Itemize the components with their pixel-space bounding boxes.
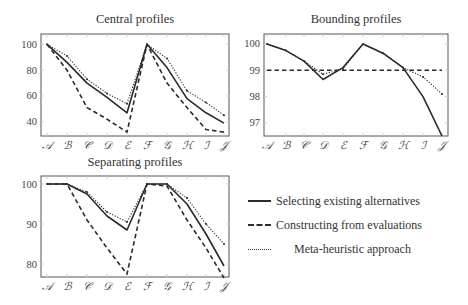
series-dashed-line	[47, 184, 224, 278]
data-point-marker	[46, 183, 48, 185]
data-point-marker	[46, 43, 48, 45]
x-tick-label: ℐ	[204, 280, 211, 293]
data-point-marker	[205, 223, 207, 225]
data-point-marker	[303, 60, 305, 62]
central-profiles-plot: 406080100𝒜ℬ𝒞𝒟ℰℱ𝒢ℋℐ𝒥	[21, 34, 232, 152]
data-point-marker	[422, 76, 424, 78]
y-tick-label: 90	[27, 219, 38, 230]
data-point-marker	[186, 90, 188, 92]
x-tick-label: 𝒞	[300, 139, 311, 152]
data-point-marker	[266, 43, 268, 45]
dashed-line-icon	[248, 224, 271, 226]
x-tick-label: ℰ	[340, 139, 348, 152]
y-tick-label: 40	[27, 116, 38, 127]
x-tick-label: 𝒥	[437, 139, 450, 152]
series-solid-line	[267, 44, 442, 136]
data-point-marker	[86, 78, 88, 80]
series-dashed-line	[47, 44, 224, 132]
plot-frame	[264, 34, 448, 136]
plots-canvas: 406080100𝒜ℬ𝒞𝒟ℰℱ𝒢ℋℐ𝒥 979899100𝒜ℬ𝒞𝒟ℰℱ𝒢ℋℐ𝒥 …	[0, 0, 468, 305]
x-tick-label: ℱ	[359, 139, 370, 152]
x-tick-label: 𝒥	[219, 139, 232, 152]
y-tick-label: 97	[250, 117, 261, 128]
data-point-marker	[146, 43, 148, 45]
data-point-marker	[66, 55, 68, 57]
data-point-marker	[382, 52, 384, 54]
solid-line-icon	[248, 200, 271, 202]
legend-label: Constructing from evaluations	[276, 218, 422, 233]
data-point-marker	[362, 43, 364, 45]
x-tick-label: 𝒟	[103, 139, 114, 152]
x-tick-label: ℱ	[143, 280, 154, 293]
data-point-marker	[66, 183, 68, 185]
x-tick-label: 𝒞	[83, 280, 94, 293]
y-tick-label: 100	[21, 179, 37, 190]
data-point-marker	[205, 101, 207, 103]
x-tick-label: ℬ	[63, 280, 73, 293]
data-point-marker	[223, 114, 225, 116]
x-tick-label: 𝒞	[83, 139, 94, 152]
legend-item-constructing: Constructing from evaluations	[248, 218, 422, 232]
y-tick-label: 100	[244, 38, 260, 49]
data-point-marker	[441, 93, 443, 95]
series-dotted-line	[47, 44, 224, 115]
y-tick-label: 98	[250, 91, 261, 102]
x-tick-label: 𝒜	[42, 139, 56, 152]
data-point-marker	[166, 58, 168, 60]
x-tick-label: ℰ	[124, 139, 132, 152]
data-point-marker	[126, 221, 128, 223]
data-point-marker	[186, 197, 188, 199]
data-point-marker	[223, 243, 225, 245]
x-tick-label: 𝒢	[163, 280, 173, 293]
data-point-marker	[146, 183, 148, 185]
x-tick-label: ℋ	[398, 139, 411, 152]
x-tick-label: ℐ	[421, 139, 428, 152]
separating-profiles-plot: 8090100𝒜ℬ𝒞𝒟ℰℱ𝒢ℋℐ𝒥	[21, 176, 232, 293]
x-tick-label: ℱ	[143, 139, 154, 152]
data-point-marker	[166, 183, 168, 185]
x-tick-label: ℰ	[124, 280, 132, 293]
legend-item-metaheuristic: Meta-heuristic approach	[248, 242, 411, 256]
data-point-marker	[86, 191, 88, 193]
y-tick-label: 80	[27, 65, 38, 76]
x-tick-label: ℬ	[63, 139, 73, 152]
x-tick-label: 𝒜	[262, 139, 276, 152]
y-tick-label: 99	[250, 65, 261, 76]
data-point-marker	[402, 67, 404, 69]
x-tick-label: ℋ	[182, 280, 195, 293]
data-point-marker	[126, 103, 128, 105]
x-tick-label: ℐ	[204, 139, 211, 152]
bounding-profiles-plot: 979899100𝒜ℬ𝒞𝒟ℰℱ𝒢ℋℐ𝒥	[244, 34, 450, 152]
legend-label: Selecting existing alternatives	[276, 194, 420, 209]
y-tick-label: 60	[27, 90, 38, 101]
legend-item-selecting: Selecting existing alternatives	[248, 194, 420, 208]
legend-label: Meta-heuristic approach	[294, 242, 411, 257]
data-point-marker	[106, 92, 108, 94]
y-tick-label: 80	[27, 259, 38, 270]
data-point-marker	[322, 73, 324, 75]
x-tick-label: 𝒟	[319, 139, 330, 152]
x-tick-label: 𝒟	[103, 280, 114, 293]
x-tick-label: 𝒜	[42, 280, 56, 293]
dotted-line-icon	[248, 249, 271, 250]
data-point-marker	[106, 211, 108, 213]
data-point-marker	[342, 68, 344, 70]
y-tick-label: 100	[21, 39, 37, 50]
data-point-marker	[285, 50, 287, 52]
x-tick-label: ℬ	[282, 139, 292, 152]
x-tick-label: 𝒥	[219, 280, 232, 293]
x-tick-label: 𝒢	[163, 139, 173, 152]
x-tick-label: ℋ	[182, 139, 195, 152]
x-tick-label: 𝒢	[379, 139, 389, 152]
